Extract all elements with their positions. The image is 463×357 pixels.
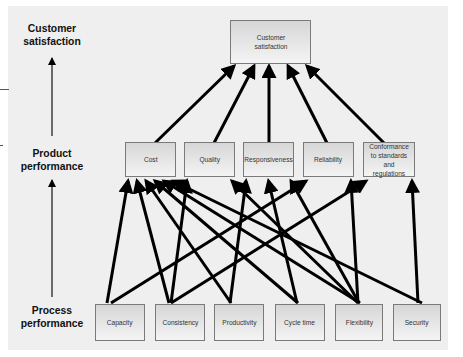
box-product-conformance: Conformance to standards and regulations: [363, 142, 415, 177]
box-process-flexibility: Flexibility: [335, 304, 383, 341]
box-product-cost: Cost: [125, 142, 176, 177]
box-process-cycle-time: Cycle time: [275, 304, 325, 341]
box-process-productivity: Productivity: [214, 304, 264, 341]
arrow-flexibility-to-reliability: [351, 181, 358, 303]
arrow-capacity-to-cost: [107, 181, 128, 303]
arrow-security-to-conformance: [412, 181, 418, 303]
arrow-quality-to-customer: [214, 66, 254, 143]
box-process-security: Security: [393, 304, 441, 341]
box-customer-satisfaction: Customer satisfaction: [230, 20, 311, 64]
arrow-reliability-to-customer: [288, 66, 327, 143]
box-process-capacity: Capacity: [95, 304, 145, 341]
arrow-cost-to-customer: [155, 66, 234, 143]
arrow-productivity-to-cost: [146, 181, 231, 303]
level-label-customer: Customer satisfaction: [7, 22, 97, 48]
arrow-flexibility-to-responsiveness: [291, 181, 359, 303]
box-product-quality: Quality: [184, 142, 235, 177]
arrow-consistency-to-quality: [171, 181, 187, 303]
level-label-process: Process performance: [7, 304, 97, 330]
arrow-cycle_time-to-responsiveness: [269, 181, 298, 303]
arrow-conformance-to-customer: [307, 66, 384, 143]
level-label-product: Product performance: [7, 147, 97, 173]
box-product-reliability: Reliability: [303, 142, 354, 177]
box-product-responsiveness: Responsiveness: [243, 142, 294, 177]
box-process-consistency: Consistency: [155, 304, 205, 341]
arrow-flexibility-to-cost: [164, 181, 360, 303]
arrow-productivity-to-responsiveness: [230, 181, 246, 303]
arrow-consistency-to-conformance: [171, 181, 366, 303]
